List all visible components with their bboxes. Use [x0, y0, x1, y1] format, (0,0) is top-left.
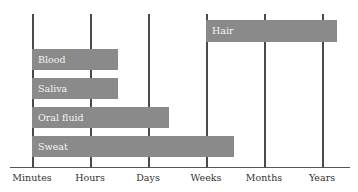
bar-hair: Hair	[206, 20, 337, 42]
x-axis-line	[10, 167, 350, 168]
x-tick-hours: Hours	[75, 172, 105, 183]
x-tick-years: Years	[309, 172, 335, 183]
bar-oral-fluid: Oral fluid	[32, 107, 169, 128]
x-tick-days: Days	[136, 172, 160, 183]
bar-blood: Blood	[32, 49, 118, 70]
bar-sweat: Sweat	[32, 136, 234, 157]
x-tick-months: Months	[246, 172, 282, 183]
bar-saliva: Saliva	[32, 78, 118, 99]
x-tick-minutes: Minutes	[12, 172, 51, 183]
x-tick-weeks: Weeks	[191, 172, 222, 183]
